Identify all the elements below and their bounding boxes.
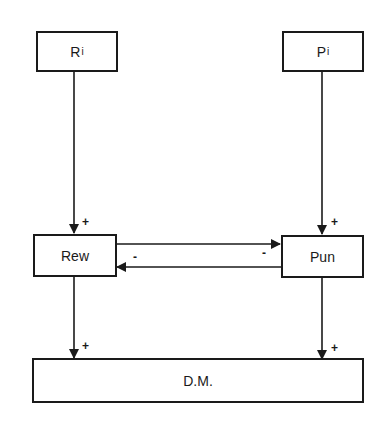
sign-pun-dm: + — [331, 342, 338, 354]
sign-rew-dm: + — [82, 340, 89, 352]
node-pun: Pun — [281, 235, 364, 278]
node-ri: Ri — [36, 31, 118, 72]
node-rew-label: Rew — [61, 248, 89, 264]
node-ri-label: R — [70, 44, 80, 60]
sign-pun-rew: - — [133, 251, 137, 263]
node-pun-label: Pun — [310, 249, 335, 265]
node-ri-subscript: i — [81, 46, 83, 57]
sign-rew-pun: - — [262, 247, 266, 259]
sign-pi-pun: + — [331, 216, 338, 228]
node-pi: Pi — [282, 31, 364, 72]
sign-ri-rew: + — [82, 216, 89, 228]
node-dm-label: D.M. — [183, 373, 213, 389]
node-pi-subscript: i — [327, 46, 329, 57]
node-rew: Rew — [33, 234, 117, 277]
node-dm: D.M. — [32, 358, 364, 403]
node-pi-label: P — [317, 44, 326, 60]
